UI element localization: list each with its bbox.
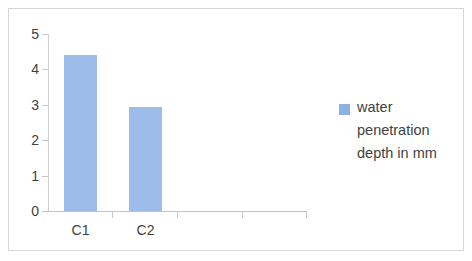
y-axis-label-3-wrap: 3	[9, 98, 39, 112]
y-axis-tick-1	[42, 176, 48, 177]
y-axis-label-1-wrap: 1	[9, 169, 39, 183]
y-axis-label-0-wrap: 0	[9, 204, 39, 218]
y-axis-label-1: 1	[17, 169, 39, 183]
y-axis-label-2-wrap: 2	[9, 133, 39, 147]
chart-container: 5 4 3 2 1 0 C1 C2	[8, 8, 464, 251]
bar-c1[interactable]	[64, 55, 97, 211]
x-axis-label-c1: C1	[60, 223, 101, 237]
y-axis-tick-3	[42, 105, 48, 106]
y-axis-label-4: 4	[17, 62, 39, 76]
y-axis-tick-0	[42, 211, 48, 212]
legend-label-line-2: penetration	[357, 119, 462, 142]
y-axis-label-5-wrap: 5	[9, 27, 39, 41]
plot-area: 5 4 3 2 1 0 C1 C2	[9, 9, 465, 252]
x-axis-tick-3	[242, 212, 243, 218]
x-axis-label-c2: C2	[125, 223, 166, 237]
y-axis-tick-2	[42, 140, 48, 141]
y-axis-tick-4	[42, 69, 48, 70]
y-axis-label-5: 5	[17, 27, 39, 41]
y-axis-label-4-wrap: 4	[9, 62, 39, 76]
y-axis-line	[48, 34, 49, 211]
legend-label-line-3: depth in mm	[357, 142, 462, 165]
x-axis-tick-1	[112, 212, 113, 218]
legend-color-swatch	[339, 104, 350, 115]
bar-c2[interactable]	[129, 107, 162, 211]
x-axis-tick-2	[177, 212, 178, 218]
legend-series-label: water penetration depth in mm	[357, 96, 462, 165]
y-axis-label-0: 0	[17, 204, 39, 218]
legend-label-line-1: water	[357, 96, 462, 119]
y-axis-label-2: 2	[17, 133, 39, 147]
y-axis-label-3: 3	[17, 98, 39, 112]
x-axis-tick-4	[306, 212, 307, 218]
y-axis-tick-5	[42, 34, 48, 35]
